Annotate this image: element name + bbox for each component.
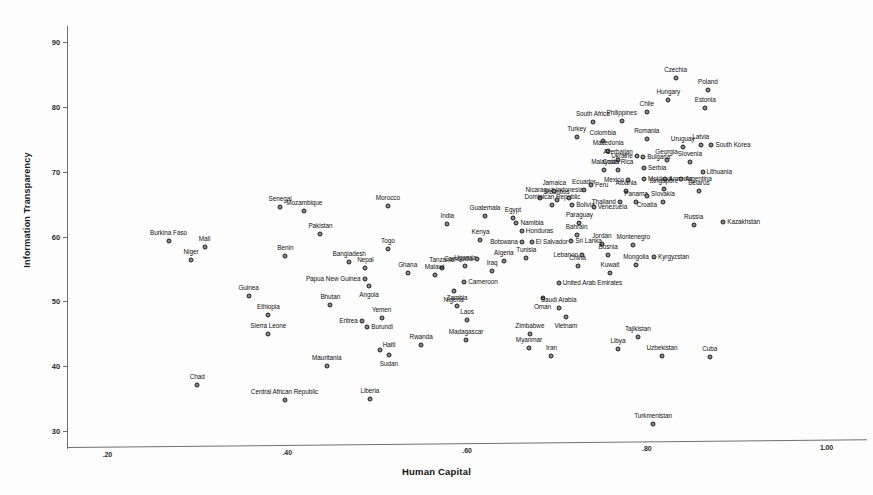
data-point[interactable] — [195, 383, 200, 388]
data-point[interactable] — [642, 176, 647, 181]
data-point[interactable] — [246, 294, 251, 299]
data-point[interactable] — [501, 259, 506, 264]
data-point[interactable] — [651, 255, 656, 260]
data-point[interactable] — [283, 253, 288, 258]
data-point[interactable] — [660, 200, 665, 205]
data-point[interactable] — [328, 303, 333, 308]
data-point[interactable] — [524, 255, 529, 260]
data-point[interactable] — [687, 160, 692, 165]
data-point[interactable] — [574, 134, 579, 139]
data-point[interactable] — [302, 209, 307, 214]
data-point[interactable] — [490, 268, 495, 273]
data-point[interactable] — [574, 232, 579, 237]
data-point[interactable] — [570, 203, 575, 208]
data-point[interactable] — [635, 334, 640, 339]
data-point[interactable] — [634, 154, 639, 159]
data-point[interactable] — [189, 258, 194, 263]
data-point[interactable] — [464, 338, 469, 343]
data-point[interactable] — [324, 364, 329, 369]
data-point[interactable] — [673, 76, 678, 81]
data-point[interactable] — [478, 238, 483, 243]
data-point[interactable] — [642, 165, 647, 170]
data-point[interactable] — [510, 215, 515, 220]
data-point[interactable] — [661, 187, 666, 192]
data-point[interactable] — [166, 239, 171, 244]
data-point[interactable] — [678, 176, 683, 181]
data-point[interactable] — [631, 242, 636, 247]
data-point[interactable] — [527, 345, 532, 350]
data-point[interactable] — [514, 220, 519, 225]
data-point[interactable] — [362, 276, 367, 281]
data-point[interactable] — [644, 193, 649, 198]
data-point[interactable] — [318, 231, 323, 236]
data-point[interactable] — [563, 315, 568, 320]
data-point[interactable] — [282, 397, 287, 402]
data-point[interactable] — [707, 354, 712, 359]
data-point[interactable] — [463, 264, 468, 269]
data-point[interactable] — [359, 319, 364, 324]
data-point[interactable] — [386, 353, 391, 358]
data-point[interactable] — [347, 260, 352, 265]
data-point[interactable] — [589, 182, 594, 187]
data-point[interactable] — [377, 347, 382, 352]
data-point[interactable] — [567, 195, 572, 200]
data-point[interactable] — [482, 213, 487, 218]
data-point[interactable] — [641, 155, 646, 160]
data-point[interactable] — [432, 272, 437, 277]
data-point[interactable] — [721, 219, 726, 224]
data-point[interactable] — [698, 142, 703, 147]
data-point[interactable] — [363, 266, 368, 271]
data-point[interactable] — [385, 204, 390, 209]
data-point[interactable] — [703, 105, 708, 110]
data-point[interactable] — [367, 397, 372, 402]
data-point[interactable] — [465, 318, 470, 323]
data-point[interactable] — [379, 316, 384, 321]
data-point[interactable] — [606, 253, 611, 258]
data-point[interactable] — [666, 97, 671, 102]
data-point[interactable] — [550, 203, 555, 208]
data-point[interactable] — [581, 187, 586, 192]
data-point[interactable] — [696, 189, 701, 194]
data-point[interactable] — [591, 205, 596, 210]
data-point[interactable] — [385, 247, 390, 252]
data-point[interactable] — [556, 281, 561, 286]
data-point[interactable] — [445, 221, 450, 226]
data-point[interactable] — [266, 312, 271, 317]
data-point[interactable] — [607, 271, 612, 276]
data-point[interactable] — [660, 354, 665, 359]
data-point[interactable] — [529, 240, 534, 245]
data-point[interactable] — [367, 284, 372, 289]
data-point[interactable] — [405, 271, 410, 276]
data-point[interactable] — [569, 239, 574, 244]
data-point[interactable] — [365, 325, 370, 330]
data-point[interactable] — [644, 110, 649, 115]
data-point[interactable] — [651, 422, 656, 427]
data-point[interactable] — [633, 262, 638, 267]
data-point[interactable] — [590, 119, 595, 124]
data-point[interactable] — [202, 244, 207, 249]
data-point[interactable] — [462, 279, 467, 284]
data-point[interactable] — [700, 169, 705, 174]
data-point[interactable] — [644, 136, 649, 141]
data-point[interactable] — [619, 119, 624, 124]
data-point[interactable] — [278, 205, 283, 210]
data-point[interactable] — [519, 229, 524, 234]
data-point[interactable] — [419, 343, 424, 348]
data-point[interactable] — [664, 158, 669, 163]
data-point[interactable] — [709, 143, 714, 148]
data-point[interactable] — [616, 167, 621, 172]
data-point[interactable] — [556, 306, 561, 311]
data-point[interactable] — [580, 252, 585, 257]
data-point[interactable] — [519, 239, 524, 244]
data-point[interactable] — [616, 347, 621, 352]
data-point[interactable] — [617, 199, 622, 204]
data-point[interactable] — [705, 88, 710, 93]
data-point[interactable] — [601, 168, 606, 173]
data-point[interactable] — [455, 303, 460, 308]
data-point[interactable] — [691, 223, 696, 228]
data-point[interactable] — [554, 198, 559, 203]
data-point[interactable] — [575, 263, 580, 268]
data-point[interactable] — [549, 353, 554, 358]
data-point[interactable] — [266, 331, 271, 336]
data-point[interactable] — [474, 256, 479, 261]
